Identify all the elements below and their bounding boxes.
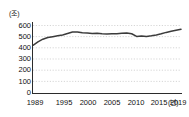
x-tick-label: 1995 (56, 98, 73, 107)
y-tick-label: 600 (3, 22, 31, 30)
x-tick-label: 2015 (151, 98, 168, 107)
x-tick-label: 2005 (104, 98, 121, 107)
y-tick-label: 200 (3, 66, 31, 74)
y-axis-line (32, 22, 33, 94)
plot-area (33, 24, 181, 93)
x-axis-tick-labels: 1989 1995 2000 2005 2010 2015 2019 (년) (0, 98, 189, 112)
x-tick-label: 2010 (128, 98, 145, 107)
y-tick-label: 400 (3, 44, 31, 52)
y-tick-label: 0 (3, 89, 31, 97)
x-tick-label: 1989 (27, 98, 44, 107)
y-tick-label: 100 (3, 78, 31, 86)
y-tick-label: 300 (3, 55, 31, 63)
data-line (33, 24, 181, 93)
x-axis-line (32, 93, 182, 94)
x-axis-unit-label: (년) (168, 98, 179, 107)
line-chart: (조) 600 500 400 300 200 100 0 1989 1995 … (0, 0, 189, 117)
x-tick-label: 2000 (80, 98, 97, 107)
y-tick-label: 500 (3, 33, 31, 41)
